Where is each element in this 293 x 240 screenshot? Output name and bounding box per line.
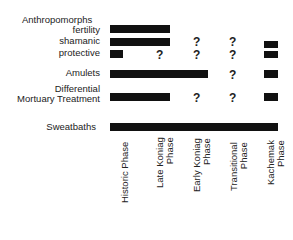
unknown-mark: ?	[193, 36, 200, 48]
row-label-protective: protective	[59, 48, 100, 58]
bar-amulets-kachemak	[264, 70, 278, 78]
bar-dmt	[110, 93, 170, 101]
row-label-sweatbaths: Sweatbaths	[46, 122, 96, 132]
bar-shamanic-kachemak	[264, 41, 278, 48]
column-label-transitional: Transitional Phase	[229, 142, 249, 191]
column-label-line: Phase	[165, 137, 175, 188]
column-label-line: Historic Phase	[120, 142, 130, 203]
column-label-line: Phase	[202, 138, 212, 192]
unknown-mark: ?	[229, 36, 236, 48]
row-label-fertility: fertility	[73, 25, 100, 35]
unknown-mark: ?	[229, 49, 236, 61]
unknown-mark: ?	[156, 49, 163, 61]
column-label-early-koniag: Early Koniag Phase	[192, 138, 212, 192]
row-label-dmt-2: Mortuary Treatment	[17, 94, 100, 104]
column-label-historic: Historic Phase	[120, 142, 130, 203]
row-label-shamanic: shamanic	[59, 36, 100, 46]
bar-sweatbaths	[110, 123, 278, 131]
bar-shamanic	[110, 38, 170, 46]
unknown-mark: ?	[229, 69, 236, 81]
bar-amulets	[110, 70, 208, 78]
unknown-mark: ?	[193, 49, 200, 61]
row-label-amulets: Amulets	[66, 68, 100, 78]
bar-fertility	[110, 25, 170, 33]
unknown-mark: ?	[193, 92, 200, 104]
column-label-line: Phase	[239, 142, 249, 191]
bar-protective	[110, 50, 123, 58]
bar-protective-kachemak	[264, 51, 278, 58]
bar-dmt-kachemak	[264, 93, 278, 101]
column-label-kachemak: Kachemak Phase	[266, 140, 286, 185]
unknown-mark: ?	[229, 92, 236, 104]
column-label-line: Phase	[276, 140, 286, 185]
column-label-late-koniag: Late Koniag Phase	[155, 137, 175, 188]
